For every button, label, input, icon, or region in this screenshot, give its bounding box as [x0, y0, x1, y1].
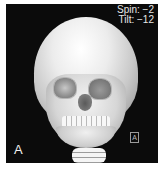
left-orbit: [88, 78, 112, 100]
tilt-value: Tilt: −12: [117, 15, 154, 25]
panel-label: A: [14, 142, 23, 157]
ct-render-panel: Spin: −2 Tilt: −12 A A: [6, 4, 158, 163]
orientation-marker-icon: A: [130, 132, 139, 143]
nasal-aperture: [78, 94, 92, 111]
rotation-overlay: Spin: −2 Tilt: −12: [117, 5, 154, 25]
right-orbit: [53, 77, 77, 99]
cervical-spine: [72, 148, 106, 163]
mandible: [56, 126, 116, 148]
